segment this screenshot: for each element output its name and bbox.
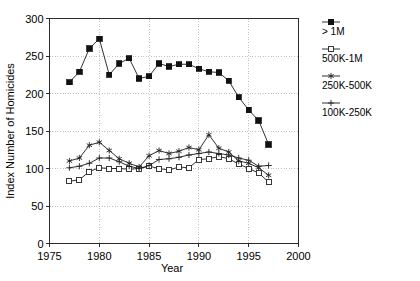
data-point-filled-square xyxy=(166,64,171,69)
data-point-open-square xyxy=(329,47,334,52)
data-point-filled-square xyxy=(146,74,151,79)
x-tick-label: 1990 xyxy=(187,250,211,262)
x-tick-label: 1980 xyxy=(87,250,111,262)
data-point-filled-square xyxy=(196,66,201,71)
data-point-filled-square xyxy=(126,56,131,61)
data-point-open-square xyxy=(246,166,251,171)
data-point-filled-square xyxy=(117,61,122,66)
data-point-filled-square xyxy=(87,46,92,51)
homicide-index-line-chart: 050100150200250300 197519801985199019952… xyxy=(0,0,420,281)
data-point-filled-square xyxy=(136,76,141,81)
data-point-open-square xyxy=(167,168,172,173)
y-tick-label: 50 xyxy=(31,200,43,212)
data-point-open-square xyxy=(196,157,201,162)
data-point-filled-square xyxy=(186,62,191,67)
data-point-filled-square xyxy=(216,70,221,75)
legend-label: 250K-500K xyxy=(322,80,372,91)
data-point-filled-square xyxy=(206,69,211,74)
data-point-open-square xyxy=(176,165,181,170)
legend-label: > 1M xyxy=(322,26,345,37)
x-tick-label: 1985 xyxy=(137,250,161,262)
y-tick-label: 100 xyxy=(25,163,43,175)
x-tick-label: 2000 xyxy=(286,250,310,262)
data-point-open-square xyxy=(266,180,271,185)
y-tick-label: 250 xyxy=(25,50,43,62)
data-point-open-square xyxy=(97,165,102,170)
data-point-filled-square xyxy=(97,36,102,41)
data-point-open-square xyxy=(67,179,72,184)
data-point-filled-square xyxy=(176,62,181,67)
data-point-filled-square xyxy=(256,118,261,123)
data-point-filled-square xyxy=(77,69,82,74)
data-point-open-square xyxy=(77,177,82,182)
data-point-filled-square xyxy=(107,72,112,77)
legend-label: 500K-1M xyxy=(322,53,363,64)
data-point-open-square xyxy=(117,166,122,171)
y-axis-title: Index Number of Homicides xyxy=(4,63,16,199)
y-tick-label: 300 xyxy=(25,13,43,25)
data-point-open-square xyxy=(206,156,211,161)
data-point-filled-square xyxy=(246,107,251,112)
data-point-filled-square xyxy=(328,19,333,24)
data-point-filled-square xyxy=(266,142,271,147)
data-point-open-square xyxy=(186,165,191,170)
data-point-filled-square xyxy=(226,78,231,83)
x-tick-label: 1995 xyxy=(236,250,260,262)
data-point-filled-square xyxy=(236,95,241,100)
legend-label: 100K-250K xyxy=(322,107,372,118)
data-point-open-square xyxy=(107,166,112,171)
data-point-open-square xyxy=(87,169,92,174)
data-point-filled-square xyxy=(67,80,72,85)
data-point-filled-square xyxy=(156,61,161,66)
data-point-open-square xyxy=(256,171,261,176)
y-tick-label: 200 xyxy=(25,88,43,100)
x-axis-title: Year xyxy=(161,262,184,274)
x-tick-label: 1975 xyxy=(37,250,61,262)
y-tick-label: 0 xyxy=(37,238,43,250)
y-tick-label: 150 xyxy=(25,125,43,137)
data-point-open-square xyxy=(157,166,162,171)
chart-background xyxy=(0,0,420,281)
chart-figure: 050100150200250300 197519801985199019952… xyxy=(0,0,420,281)
